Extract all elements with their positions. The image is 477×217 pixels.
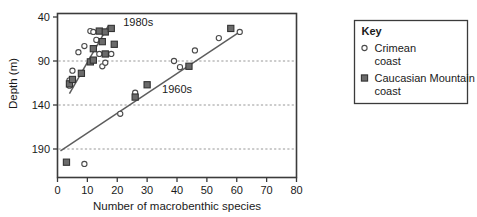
- series-caucasian-mountain-coast: [63, 25, 234, 165]
- xtick-label-70: 70: [261, 184, 273, 196]
- point-caucasian-15: [186, 63, 192, 69]
- point-caucasian-14: [144, 82, 150, 88]
- ytick-label-40: 40: [38, 11, 50, 23]
- plot-frame: [58, 14, 297, 178]
- point-caucasian-7: [96, 28, 102, 34]
- xtick-label-20: 20: [111, 184, 123, 196]
- annotation-1960s: 1960s: [162, 83, 192, 95]
- xtick-label-50: 50: [201, 184, 213, 196]
- xtick-label-10: 10: [81, 184, 93, 196]
- trendline-1960s: [60, 32, 239, 151]
- point-crimean-5: [82, 161, 87, 166]
- legend-marker-crimean: [362, 45, 367, 50]
- annotation-1980s: 1980s: [123, 16, 153, 28]
- point-crimean-12: [109, 51, 114, 56]
- point-caucasian-11: [108, 25, 114, 31]
- legend-label-0-line1: Crimean: [375, 42, 417, 54]
- point-caucasian-3: [78, 70, 84, 76]
- ytick-label-190: 190: [32, 143, 50, 155]
- point-caucasian-5: [90, 57, 96, 63]
- y-axis-title: Depth (m): [7, 58, 19, 109]
- point-crimean-16: [177, 65, 182, 70]
- legend-label-0-line2: coast: [375, 55, 401, 67]
- point-caucasian-2: [69, 76, 75, 82]
- point-crimean-3: [76, 50, 81, 55]
- point-crimean-13: [118, 111, 123, 116]
- point-caucasian-0: [63, 159, 69, 165]
- point-crimean-7: [91, 29, 96, 34]
- point-caucasian-10: [102, 29, 108, 35]
- point-crimean-2: [70, 68, 75, 73]
- point-crimean-4: [82, 43, 87, 48]
- point-crimean-15: [171, 58, 176, 63]
- point-caucasian-13: [132, 94, 138, 100]
- xtick-label-80: 80: [290, 184, 302, 196]
- xtick-label-30: 30: [141, 184, 153, 196]
- point-caucasian-6: [90, 46, 96, 52]
- xtick-label-0: 0: [54, 184, 60, 196]
- chart-figure: 1980s1960s010203040506070804090140190Num…: [0, 0, 477, 217]
- point-crimean-8: [94, 37, 99, 42]
- point-crimean-11: [103, 60, 108, 65]
- ytick-label-140: 140: [32, 99, 50, 111]
- legend-label-1-line1: Caucasian Mountain: [375, 72, 475, 84]
- legend-label-1-line2: coast: [375, 85, 401, 97]
- point-crimean-9: [97, 51, 102, 56]
- legend-marker-caucasian: [361, 75, 367, 81]
- point-caucasian-8: [99, 39, 105, 45]
- point-caucasian-12: [111, 41, 117, 47]
- point-caucasian-16: [228, 25, 234, 31]
- point-caucasian-9: [102, 51, 108, 57]
- point-crimean-19: [237, 29, 242, 34]
- point-crimean-18: [216, 36, 221, 41]
- legend-title: Key: [362, 25, 383, 37]
- xtick-label-40: 40: [171, 184, 183, 196]
- point-crimean-17: [192, 48, 197, 53]
- scatter-plot-svg: 1980s1960s010203040506070804090140190Num…: [0, 0, 477, 217]
- x-axis-title: Number of macrobenthic species: [93, 200, 261, 212]
- xtick-label-60: 60: [231, 184, 243, 196]
- ytick-label-90: 90: [38, 55, 50, 67]
